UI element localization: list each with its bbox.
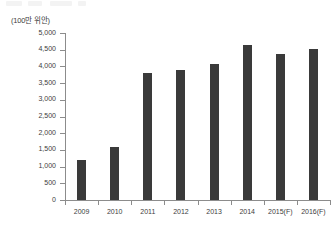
y-axis-tick-label: 2,500 — [26, 112, 56, 121]
bar — [176, 70, 185, 200]
y-axis-tick — [60, 66, 65, 67]
bar — [77, 160, 86, 200]
y-axis-tick-label: 3,000 — [26, 95, 56, 104]
x-axis-tick — [231, 200, 232, 205]
y-axis-tick-label: 4,000 — [26, 62, 56, 71]
y-axis-tick — [60, 100, 65, 101]
x-axis-tick-label: 2010 — [98, 208, 131, 215]
y-axis-tick — [60, 117, 65, 118]
y-axis-tick — [60, 167, 65, 168]
y-axis-tick-label-text: 2,500 — [26, 112, 56, 119]
y-axis-tick-label: 2,000 — [26, 129, 56, 138]
y-axis-tick-label: 1,000 — [26, 162, 56, 171]
bar — [143, 73, 152, 200]
x-axis-tick-label: 2015(F) — [264, 208, 297, 215]
y-axis-tick-label-text: 1,500 — [26, 145, 56, 152]
plot-area: 05001,0001,5002,0002,5003,0003,5004,0004… — [0, 0, 336, 226]
y-axis-tick — [60, 50, 65, 51]
y-axis-tick — [60, 183, 65, 184]
y-axis-tick-label-text: 3,000 — [26, 95, 56, 102]
y-axis-tick-label: 4,500 — [26, 45, 56, 54]
y-axis-line — [65, 33, 66, 201]
y-axis-tick-label-text: 0 — [26, 196, 56, 203]
y-axis-tick-label: 0 — [26, 196, 56, 205]
bar — [110, 147, 119, 200]
x-axis-tick — [264, 200, 265, 205]
x-axis-tick-label: 2012 — [164, 208, 197, 215]
y-axis-tick-label-text: 5,000 — [26, 29, 56, 36]
y-axis-tick — [60, 33, 65, 34]
y-axis-tick-label: 500 — [26, 179, 56, 188]
y-axis-tick-label: 3,500 — [26, 79, 56, 88]
y-axis-tick — [60, 83, 65, 84]
x-axis-tick-label: 2009 — [65, 208, 98, 215]
y-axis-tick-label-text: 2,000 — [26, 129, 56, 136]
x-axis-tick-label: 2013 — [198, 208, 231, 215]
x-axis-tick-label: 2011 — [131, 208, 164, 215]
bar-chart: (100만 위안) 05001,0001,5002,0002,5003,0003… — [0, 0, 336, 226]
x-axis-tick-label: 2016(F) — [297, 208, 330, 215]
x-axis-tick — [297, 200, 298, 205]
x-axis-tick — [65, 200, 66, 205]
y-axis-tick-label-text: 500 — [26, 179, 56, 186]
y-axis-tick — [60, 133, 65, 134]
bar — [210, 64, 219, 200]
bar — [243, 45, 252, 200]
x-axis-tick — [330, 200, 331, 205]
y-axis-tick-label: 5,000 — [26, 29, 56, 38]
x-axis-tick — [198, 200, 199, 205]
bar — [276, 54, 285, 200]
y-axis-tick — [60, 150, 65, 151]
x-axis-tick — [131, 200, 132, 205]
y-axis-tick-label: 1,500 — [26, 145, 56, 154]
bar — [309, 49, 318, 200]
y-axis-tick-label-text: 4,000 — [26, 62, 56, 69]
x-axis-tick — [98, 200, 99, 205]
x-axis-tick-label: 2014 — [231, 208, 264, 215]
y-axis-tick-label-text: 4,500 — [26, 45, 56, 52]
y-axis-tick-label-text: 1,000 — [26, 162, 56, 169]
y-axis-tick-label-text: 3,500 — [26, 79, 56, 86]
x-axis-tick — [164, 200, 165, 205]
